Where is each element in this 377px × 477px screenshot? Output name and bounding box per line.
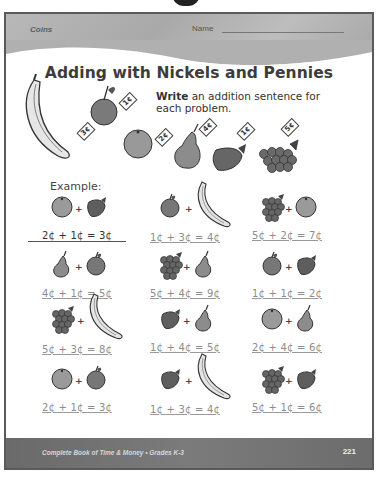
grapes-icon <box>53 306 75 334</box>
answer-sentence[interactable]: 5¢ + 2¢ = 7¢ <box>232 230 342 241</box>
orange-icon <box>296 197 316 217</box>
answer-sentence[interactable]: 5¢ + 3¢ = 8¢ <box>22 344 132 355</box>
plus-sign: + <box>185 376 193 386</box>
pear-icon <box>298 305 313 331</box>
plus-sign: + <box>285 376 293 386</box>
pear-icon <box>54 251 69 277</box>
plus-sign: + <box>77 316 85 326</box>
problem-10: +1¢ + 3¢ = 4¢ <box>130 364 240 434</box>
plus-sign: + <box>183 262 191 272</box>
plus-sign: + <box>75 262 83 272</box>
footer-book-title: Complete Book of Time & Money • Grades K… <box>42 449 184 456</box>
grapes-icon <box>260 140 299 173</box>
worksheet-page: Coins Name Adding with Nickels and Penni… <box>4 12 374 470</box>
pear-icon <box>175 124 200 168</box>
cutoff-title-glyph <box>172 0 200 6</box>
orange-icon <box>52 369 72 389</box>
grapes-icon <box>263 194 285 222</box>
answer-sentence[interactable]: 1¢ + 1¢ = 2¢ <box>232 288 342 299</box>
strawberry-icon <box>213 144 246 170</box>
apple-icon <box>87 252 105 275</box>
pear-icon <box>196 251 211 277</box>
grapes-icon <box>161 252 183 280</box>
plus-sign: + <box>75 376 83 386</box>
orange-icon <box>262 309 282 329</box>
banana-icon <box>198 182 230 227</box>
pear-icon <box>196 305 211 331</box>
banana-icon <box>26 74 69 158</box>
answer-sentence[interactable]: 2¢ + 4¢ = 6¢ <box>232 342 342 353</box>
grapes-icon <box>263 366 285 394</box>
page-number: 221 <box>343 447 356 456</box>
plus-sign: + <box>285 262 293 272</box>
orange-icon <box>52 197 72 217</box>
plus-sign: + <box>185 204 193 214</box>
apple-icon <box>161 194 179 217</box>
plus-sign: + <box>183 316 191 326</box>
apple-icon <box>263 252 281 275</box>
strawberry-icon <box>298 369 316 389</box>
strawberry-icon <box>162 369 180 389</box>
answer-sentence[interactable]: 1¢ + 3¢ = 4¢ <box>130 232 240 243</box>
plus-sign: + <box>75 204 83 214</box>
answer-sentence[interactable]: 1¢ + 3¢ = 4¢ <box>130 404 240 415</box>
answer-sentence[interactable]: 4¢ + 1¢ = 5¢ <box>22 288 132 299</box>
problem-9: +2¢ + 1¢ = 3¢ <box>22 364 132 434</box>
strawberry-icon <box>298 255 316 275</box>
strawberry-icon <box>162 309 180 329</box>
footer-band: Complete Book of Time & Money • Grades K… <box>6 438 372 468</box>
answer-sentence[interactable]: 2¢ + 1¢ = 3¢ <box>22 402 132 413</box>
orange-icon <box>124 130 152 158</box>
price-key <box>6 14 372 184</box>
problem-11: +5¢ + 1¢ = 6¢ <box>232 364 342 434</box>
answer-sentence[interactable]: 1¢ + 4¢ = 5¢ <box>130 342 240 353</box>
apple-icon <box>87 366 105 389</box>
apple-icon <box>91 86 117 125</box>
answer-sentence[interactable]: 5¢ + 4¢ = 9¢ <box>130 288 240 299</box>
answer-sentence[interactable]: 5¢ + 1¢ = 6¢ <box>232 402 342 413</box>
strawberry-icon <box>88 197 106 217</box>
plus-sign: + <box>285 316 293 326</box>
plus-sign: + <box>285 204 293 214</box>
answer-sentence: 2¢ + 1¢ = 3¢ <box>28 230 126 242</box>
